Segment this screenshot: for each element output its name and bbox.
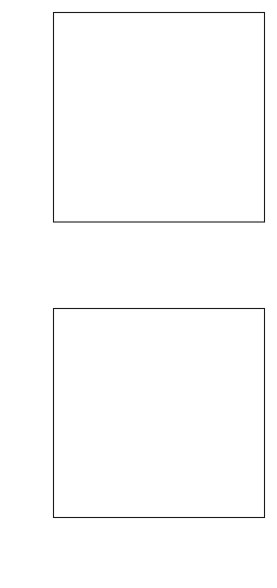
panel-b-plot [0,290,277,588]
figure-container [0,0,277,588]
panel-b-cumulative-probability [0,290,277,588]
panel-a-plot [0,0,277,290]
panel-a-axes-frame [54,13,265,223]
panel-a-probability-density [0,0,277,290]
panel-b-axes-frame [54,309,265,518]
